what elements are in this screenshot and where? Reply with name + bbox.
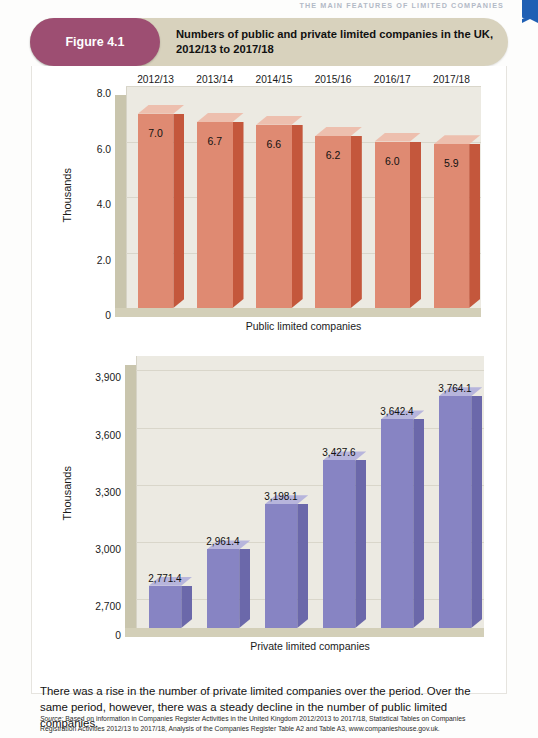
chart1-bar bbox=[256, 125, 292, 308]
chart-public-limited-companies: Thousands Public limited companies 02.04… bbox=[31, 72, 507, 332]
bar-front-face bbox=[439, 396, 471, 628]
chart1-bar bbox=[315, 136, 351, 308]
chart1-y-tick: 2.0 bbox=[63, 255, 111, 266]
source-label: Source: bbox=[40, 715, 63, 722]
chart1-bar-value-label: 5.9 bbox=[424, 157, 480, 169]
figure-number-badge: Figure 4.1 bbox=[30, 18, 160, 66]
chart2-y-tick: 3,600 bbox=[73, 430, 121, 441]
bar-side-face bbox=[413, 419, 424, 628]
chart1-category-label: 2013/14 bbox=[188, 74, 242, 85]
chart1-y-tick: 4.0 bbox=[63, 199, 111, 210]
chart2-bar bbox=[323, 460, 355, 628]
bar-front-face bbox=[265, 504, 297, 628]
chart2-bar-value-label: 2,961.4 bbox=[197, 536, 249, 547]
bar-side-face bbox=[292, 125, 303, 308]
running-head: THE MAIN FEATURES OF LIMITED COMPANIES bbox=[300, 1, 504, 10]
chart2-gridline bbox=[136, 542, 484, 543]
chart2-bar-value-label: 2,771.4 bbox=[139, 573, 191, 584]
chart2-left-wall bbox=[125, 365, 136, 637]
chart2-bar-value-label: 3,764.1 bbox=[429, 383, 481, 394]
chart1-bar-value-label: 6.7 bbox=[187, 135, 243, 147]
bar-front-face bbox=[315, 136, 351, 308]
figure-title: Numbers of public and private limited co… bbox=[176, 27, 516, 56]
figure-header-band: Figure 4.1 Numbers of public and private… bbox=[30, 18, 508, 66]
chart2-gridline bbox=[136, 485, 484, 486]
chart2-bar bbox=[265, 504, 297, 628]
bar-front-face bbox=[323, 460, 355, 628]
chart2-bar bbox=[439, 396, 471, 628]
chart1-y-tick: 8.0 bbox=[63, 88, 111, 99]
chart1-y-tick: 0 bbox=[63, 310, 111, 321]
chart2-floor bbox=[125, 628, 484, 637]
bar-front-face bbox=[207, 549, 239, 628]
bar-side-face bbox=[355, 460, 366, 628]
chart2-bar bbox=[207, 549, 239, 628]
chart2-y-tick: 0 bbox=[73, 630, 121, 641]
chart2-gridline bbox=[136, 428, 484, 429]
chart1-category-label: 2016/17 bbox=[366, 74, 420, 85]
chart2-bar bbox=[149, 586, 181, 628]
chart1-bar bbox=[138, 114, 174, 308]
chart2-bar-value-label: 3,642.4 bbox=[371, 406, 423, 417]
chart2-y-tick: 3,900 bbox=[73, 372, 121, 383]
page-corner-tab bbox=[522, 0, 538, 19]
chart1-left-wall bbox=[115, 95, 126, 317]
bar-front-face bbox=[381, 419, 413, 628]
chart2-bar-value-label: 3,198.1 bbox=[255, 491, 307, 502]
chart2-plot-area bbox=[136, 356, 484, 628]
chart1-bar-value-label: 7.0 bbox=[128, 127, 184, 139]
chart1-bar-value-label: 6.2 bbox=[305, 149, 361, 161]
chart1-bar-value-label: 6.6 bbox=[246, 138, 302, 150]
chart1-category-label: 2017/18 bbox=[425, 74, 479, 85]
chart1-y-tick: 6.0 bbox=[63, 144, 111, 155]
chart1-category-label: 2012/13 bbox=[129, 74, 183, 85]
chart1-gridline bbox=[126, 86, 481, 87]
bar-side-face bbox=[351, 136, 362, 308]
bar-side-face bbox=[173, 114, 184, 308]
chart1-y-axis-label: Thousands bbox=[61, 168, 73, 222]
bar-side-face bbox=[297, 504, 308, 628]
bar-front-face bbox=[149, 586, 181, 628]
bar-side-face bbox=[471, 396, 482, 628]
source-text: Based on information in Companies Regist… bbox=[40, 715, 465, 732]
chart1-floor bbox=[115, 308, 481, 317]
figure-source: Source: Based on information in Companie… bbox=[40, 714, 500, 733]
chart1-x-axis-caption: Public limited companies bbox=[126, 320, 481, 332]
chart1-category-label: 2015/16 bbox=[306, 74, 360, 85]
chart2-y-tick: 3,000 bbox=[73, 544, 121, 555]
chart2-y-axis-label: Thousands bbox=[61, 466, 73, 520]
bar-front-face bbox=[256, 125, 292, 308]
chart2-y-tick: 2,700 bbox=[73, 601, 121, 612]
chart2-bar-value-label: 3,427.6 bbox=[313, 447, 365, 458]
chart2-x-axis-caption: Private limited companies bbox=[136, 640, 484, 652]
bar-side-face bbox=[239, 549, 250, 628]
figure-page: THE MAIN FEATURES OF LIMITED COMPANIES F… bbox=[0, 0, 538, 738]
chart-private-limited-companies: Thousands Private limited companies 02,7… bbox=[31, 336, 507, 676]
chart1-category-label: 2014/15 bbox=[247, 74, 301, 85]
bar-front-face bbox=[197, 122, 233, 308]
chart1-bar bbox=[197, 122, 233, 308]
bar-side-face bbox=[233, 122, 244, 308]
chart1-bar-value-label: 6.0 bbox=[365, 155, 421, 167]
chart2-gridline bbox=[136, 370, 484, 371]
chart2-bar bbox=[381, 419, 413, 628]
bar-front-face bbox=[138, 114, 174, 308]
chart2-y-tick: 3,300 bbox=[73, 487, 121, 498]
chart1-plot-area bbox=[126, 86, 481, 308]
